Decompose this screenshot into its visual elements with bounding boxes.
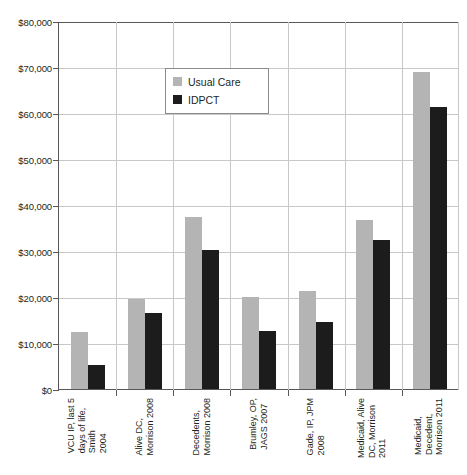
legend-label-idpct: IDPCT: [188, 94, 220, 106]
x-axis-tick: [173, 390, 174, 396]
x-axis-tick: [402, 390, 403, 396]
bar-group: [345, 21, 402, 389]
x-axis-category-label-text: Alive DC,Morrison 2008: [133, 398, 154, 456]
y-axis-tick-label: $0: [0, 385, 52, 396]
y-axis-tick-label: $80,000: [0, 17, 52, 28]
y-axis-tick: [53, 390, 59, 391]
x-axis-category-label-text: Medicaid,Decedent,Morrison 2011: [414, 398, 446, 455]
x-axis-category-label: VCU IP, last 5days of life,Smith2004: [58, 398, 115, 472]
legend-item-idpct: IDPCT: [173, 92, 261, 107]
y-axis-tick-label: $50,000: [0, 155, 52, 166]
x-axis-tick: [345, 390, 346, 396]
bar-usual-care: [356, 220, 373, 389]
bar-idpct: [316, 322, 333, 389]
bar-group: [288, 21, 345, 389]
x-axis-category-label-text: Gade, IP, JPM2008: [305, 398, 326, 455]
y-axis-tick-label: $20,000: [0, 293, 52, 304]
bar-usual-care: [185, 217, 202, 389]
x-axis-category-label: Alive DC,Morrison 2008: [115, 398, 172, 472]
x-axis-labels: VCU IP, last 5days of life,Smith2004Aliv…: [58, 398, 458, 475]
x-axis-category-label-text: VCU IP, last 5days of life,Smith2004: [66, 398, 108, 453]
bar-idpct: [259, 331, 276, 389]
bar-usual-care: [128, 299, 145, 389]
x-axis-tick: [230, 390, 231, 396]
x-axis-category-label: Decedents,Morrison 2008: [172, 398, 229, 472]
bar-usual-care: [71, 332, 88, 389]
x-axis-tick: [288, 390, 289, 396]
y-axis-tick-label: $30,000: [0, 247, 52, 258]
bar-idpct: [202, 250, 219, 389]
bar-chart: $80,000$70,000$60,000$50,000$40,000$30,0…: [0, 0, 467, 475]
x-axis-category-label-text: Brumley, OP,JAGS 2007: [247, 398, 268, 450]
legend-label-usual-care: Usual Care: [188, 76, 241, 88]
x-axis-category-label: Medicaid, AliveDC, Morrison2011: [344, 398, 401, 472]
bar-group: [402, 21, 459, 389]
y-axis-tick-label: $10,000: [0, 339, 52, 350]
x-axis-category-label-text: Medicaid, AliveDC, Morrison2011: [357, 398, 389, 458]
y-axis-tick-label: $60,000: [0, 109, 52, 120]
x-axis-tick: [116, 390, 117, 396]
bar-usual-care: [299, 291, 316, 389]
legend-swatch-idpct: [173, 95, 182, 104]
x-axis-category-label: Brumley, OP,JAGS 2007: [229, 398, 286, 472]
bar-idpct: [145, 313, 162, 389]
legend-swatch-usual-care: [173, 77, 182, 86]
x-axis-category-label: Gade, IP, JPM2008: [287, 398, 344, 472]
bar-group: [59, 21, 116, 389]
y-axis-tick-label: $70,000: [0, 63, 52, 74]
x-axis-category-label-text: Decedents,Morrison 2008: [190, 398, 211, 456]
bar-idpct: [88, 365, 105, 389]
bar-usual-care: [413, 72, 430, 389]
bar-idpct: [430, 107, 447, 389]
legend-item-usual-care: Usual Care: [173, 74, 261, 89]
chart-legend: Usual Care IDPCT: [165, 68, 269, 114]
bar-idpct: [373, 240, 390, 390]
bar-usual-care: [242, 297, 259, 389]
x-axis-category-label: Medicaid,Decedent,Morrison 2011: [401, 398, 458, 472]
y-axis-tick-label: $40,000: [0, 201, 52, 212]
